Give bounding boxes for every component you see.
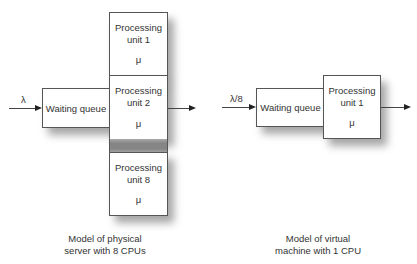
unit-title: Processing	[115, 162, 162, 173]
processing-unit-8: Processingunit 8 μ	[109, 152, 168, 216]
service-rate-label: μ	[110, 118, 167, 130]
omitted-units-band	[109, 139, 168, 153]
service-rate-label: μ	[110, 54, 167, 66]
output-arrow-head	[404, 104, 411, 110]
unit-name: unit 1	[127, 34, 150, 45]
arrival-rate-label: λ	[21, 94, 26, 105]
output-arrow-head	[189, 105, 196, 111]
output-arrow-line	[168, 108, 190, 109]
input-arrow-line	[222, 107, 250, 108]
unit-title: Processing	[329, 85, 376, 96]
virtual-caption: Model of virtual machine with 1 CPU	[248, 233, 388, 257]
unit-title: Processing	[115, 85, 162, 96]
waiting-queue-label: Waiting queue	[46, 103, 106, 114]
processing-unit-1: Processingunit 1 μ	[323, 75, 381, 139]
service-rate-label: μ	[324, 117, 380, 129]
unit-title: Processing	[115, 22, 162, 33]
processing-unit-1: Processingunit 1 μ	[109, 12, 168, 76]
arrival-rate-label: λ/8	[230, 93, 243, 104]
service-rate-label: μ	[110, 194, 167, 206]
unit-name: unit 8	[127, 174, 150, 185]
waiting-queue-box: Waiting queue	[256, 88, 325, 127]
input-arrow-head	[249, 104, 256, 110]
output-arrow-line	[381, 107, 405, 108]
waiting-queue-box: Waiting queue	[42, 88, 110, 128]
processing-unit-2: Processingunit 2 μ	[109, 75, 168, 140]
input-arrow-line	[9, 108, 37, 109]
physical-caption: Model of physical server with 8 CPUs	[35, 233, 175, 257]
waiting-queue-label: Waiting queue	[260, 102, 320, 113]
unit-name: unit 2	[127, 97, 150, 108]
unit-name: unit 1	[340, 97, 363, 108]
input-arrow-head	[35, 105, 42, 111]
